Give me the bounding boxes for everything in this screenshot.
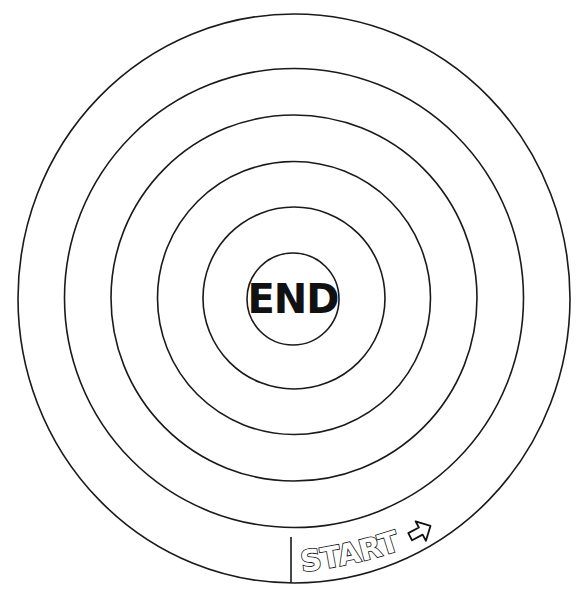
end-label: END — [247, 276, 338, 322]
arrow-right-icon — [405, 516, 436, 546]
start-label: START — [298, 524, 403, 579]
game-board: END START — [0, 0, 582, 597]
